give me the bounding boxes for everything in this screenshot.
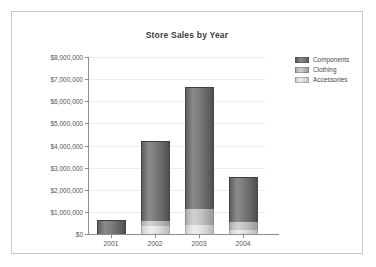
legend-label: Components xyxy=(313,56,349,63)
y-axis-tick-label: $7,000,000 xyxy=(50,76,83,83)
chart-frame: Store Sales by Year $8,000,000$7,000,000… xyxy=(11,11,363,254)
y-axis-tick-label: $8,000,000 xyxy=(50,54,83,61)
bar-segment-clothing[interactable] xyxy=(185,209,214,226)
y-axis-tick-label: $3,000,000 xyxy=(50,164,83,171)
y-axis-tick-label: $6,000,000 xyxy=(50,98,83,105)
bar-segment-components[interactable] xyxy=(141,141,170,221)
y-axis-tick xyxy=(85,190,89,191)
gridline xyxy=(89,79,265,80)
bar-stack[interactable] xyxy=(97,220,126,234)
legend-label: Accessories xyxy=(313,76,347,83)
legend-swatch xyxy=(295,77,309,83)
y-axis-tick-label: $0 xyxy=(76,231,83,238)
bar-stack[interactable] xyxy=(229,177,258,234)
y-axis-tick-label: $2,000,000 xyxy=(50,186,83,193)
bar-segment-components[interactable] xyxy=(185,87,214,209)
chart-legend: ComponentsClothingAccessories xyxy=(295,56,375,86)
y-axis-tick xyxy=(85,123,89,124)
y-axis-tick xyxy=(85,212,89,213)
y-axis-tick xyxy=(85,146,89,147)
bar-segment-clothing[interactable] xyxy=(141,221,170,226)
x-axis-tick-label: 2002 xyxy=(147,240,162,247)
y-axis-tick-label: $1,000,000 xyxy=(50,208,83,215)
legend-item-accessories[interactable]: Accessories xyxy=(295,76,375,83)
bar-segment-clothing[interactable] xyxy=(229,222,258,230)
x-axis-tick xyxy=(155,234,156,238)
bar-stack[interactable] xyxy=(185,87,214,234)
gridline xyxy=(89,57,265,58)
legend-swatch xyxy=(295,67,309,73)
gridline xyxy=(89,146,265,147)
plot-area xyxy=(89,57,265,234)
y-axis-tick xyxy=(85,79,89,80)
x-axis-tick-label: 2003 xyxy=(191,240,206,247)
bar-stack[interactable] xyxy=(141,141,170,234)
x-axis-tick-label: 2004 xyxy=(235,240,250,247)
x-axis-tick-label: 2001 xyxy=(103,240,118,247)
x-axis-tick xyxy=(199,234,200,238)
x-axis-tick xyxy=(111,234,112,238)
y-axis-tick xyxy=(85,57,89,58)
legend-swatch xyxy=(295,57,309,63)
gridline xyxy=(89,123,265,124)
y-axis-labels: $8,000,000$7,000,000$6,000,000$5,000,000… xyxy=(12,12,89,267)
bar-segment-accessories[interactable] xyxy=(185,225,214,234)
bar-segment-components[interactable] xyxy=(229,177,258,222)
y-axis-tick-label: $5,000,000 xyxy=(50,120,83,127)
y-axis-tick xyxy=(85,168,89,169)
legend-item-clothing[interactable]: Clothing xyxy=(295,66,375,73)
y-axis-tick-label: $4,000,000 xyxy=(50,142,83,149)
bar-segment-components[interactable] xyxy=(97,220,126,234)
gridline xyxy=(89,101,265,102)
y-axis-tick xyxy=(85,101,89,102)
bar-segment-accessories[interactable] xyxy=(141,226,170,234)
legend-item-components[interactable]: Components xyxy=(295,56,375,63)
gridline xyxy=(89,168,265,169)
x-axis-labels: 2001200220032004 xyxy=(89,234,289,264)
x-axis-tick xyxy=(243,234,244,238)
legend-label: Clothing xyxy=(313,66,336,73)
